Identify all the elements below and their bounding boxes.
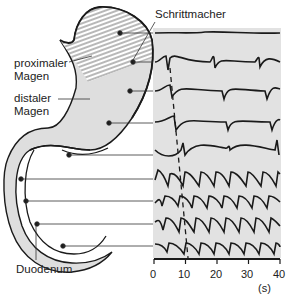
tick-20: 20 (210, 268, 222, 280)
gastric-motility-diagram: Schrittmacher proximaler Magen distaler … (0, 0, 291, 295)
distal-stomach-label-1: distaler (14, 92, 51, 105)
diagram-graphics (0, 0, 291, 295)
proximal-stomach-label-2: Magen (14, 70, 49, 83)
duodenum-label: Duodenum (16, 263, 72, 276)
distal-stomach-label-2: Magen (14, 105, 49, 118)
tick-30: 30 (241, 268, 253, 280)
time-axis (154, 259, 280, 264)
axis-unit: (s) (258, 282, 271, 294)
stomach-shape (4, 7, 153, 272)
tick-40: 40 (273, 268, 285, 280)
pacemaker-label: Schrittmacher (155, 8, 226, 21)
tick-10: 10 (178, 268, 190, 280)
tick-0: 0 (150, 268, 156, 280)
proximal-stomach-label-1: proximaler (14, 57, 68, 70)
